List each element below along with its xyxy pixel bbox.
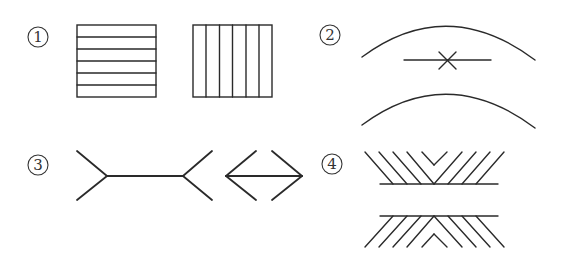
label-3: 3 [28, 155, 48, 175]
label-text: 2 [325, 26, 335, 44]
upper-arc [362, 26, 535, 60]
vertical-striped-square [193, 25, 272, 97]
label-1: 1 [28, 27, 48, 47]
label-text: 3 [33, 156, 43, 174]
label-2: 2 [320, 25, 340, 45]
optical-illusion-diagram: 1 2 3 [0, 0, 564, 257]
label-text: 1 [33, 28, 43, 46]
muller-lyer-inward-arrows [226, 151, 302, 200]
label-text: 4 [327, 155, 337, 173]
muller-lyer-outward-fins [77, 151, 212, 200]
label-4: 4 [322, 154, 342, 174]
lower-arc [362, 94, 535, 128]
zollner-top [365, 152, 504, 184]
zollner-bottom [365, 216, 504, 247]
horizontal-striped-square [77, 25, 156, 97]
arcs-figure [362, 26, 535, 128]
